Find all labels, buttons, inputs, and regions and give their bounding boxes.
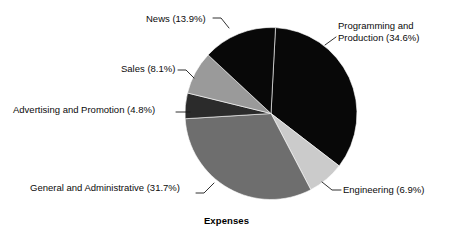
pie-label-programming-and-production: Programming and Production (34.6%) xyxy=(338,20,448,43)
pie-label-news-text: News (13.9%) xyxy=(146,13,206,24)
leader-line-engineering xyxy=(322,182,341,190)
leader-line-news xyxy=(213,18,229,28)
pie-label-sales-text: Sales (8.1%) xyxy=(121,63,175,74)
pie-label-programming-line2: Production (34.6%) xyxy=(338,32,419,43)
pie-label-programming-line1: Programming and xyxy=(338,20,414,31)
pie-label-news: News (13.9%) xyxy=(146,13,206,25)
pie-label-engineering-text: Engineering (6.9%) xyxy=(343,184,424,195)
pie-label-advertising-text: Advertising and Promotion (4.8%) xyxy=(13,104,155,115)
pie-slices-group: Programming and Production (34.6%)Engine… xyxy=(185,28,357,200)
pie-label-advertising-and-promotion: Advertising and Promotion (4.8%) xyxy=(13,104,155,116)
pie-label-general-administrative-text: General and Administrative (31.7%) xyxy=(30,182,180,193)
leader-line-programming xyxy=(325,37,336,45)
pie-label-sales: Sales (8.1%) xyxy=(121,63,175,75)
leader-line-general-administrative xyxy=(196,183,214,193)
pie-label-general-and-administrative: General and Administrative (31.7%) xyxy=(30,182,180,194)
chart-title: Expenses xyxy=(0,215,453,226)
pie-chart-figure: Programming and Production (34.6%)Engine… xyxy=(0,0,453,238)
pie-label-engineering: Engineering (6.9%) xyxy=(343,184,424,196)
leader-line-sales xyxy=(178,70,194,78)
